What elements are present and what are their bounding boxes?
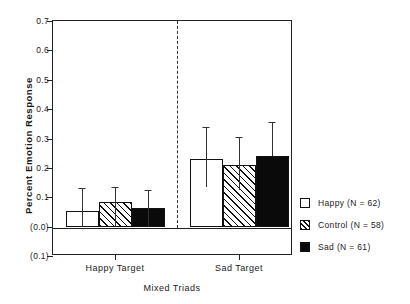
legend-swatch-hatch <box>300 220 310 230</box>
legend-label: Control (N = 58) <box>318 220 384 230</box>
y-tick-label: (0.0) <box>30 222 49 232</box>
y-tick-label: 0.4 <box>36 104 49 114</box>
y-tick-label: 0.6 <box>36 45 49 55</box>
y-tick-label: 0.7 <box>36 16 49 26</box>
error-bar-cap-top <box>145 190 152 191</box>
error-bar <box>239 137 240 190</box>
legend: Happy (N = 62)Control (N = 58)Sad (N = 6… <box>300 192 410 258</box>
x-axis-title: Mixed Triads <box>52 283 292 293</box>
y-tick-label: 0.5 <box>36 75 49 85</box>
zero-baseline <box>53 228 291 229</box>
error-bar-cap-top <box>236 137 243 138</box>
error-bar-cap-top <box>112 187 119 188</box>
x-tick-label: Happy Target <box>86 263 145 273</box>
error-bar <box>272 122 273 156</box>
error-bar <box>148 190 149 227</box>
legend-label: Sad (N = 61) <box>318 242 371 252</box>
error-bar-cap-top <box>269 122 276 123</box>
error-bar <box>115 187 116 227</box>
legend-item: Control (N = 58) <box>300 214 410 236</box>
x-tick-mark <box>239 254 240 260</box>
error-bar <box>82 188 83 226</box>
error-bar-cap-top <box>203 127 210 128</box>
y-tick-label: 0.3 <box>36 134 49 144</box>
plot-area: 0.70.60.50.40.30.20.1(0.0)(0.1) Happy Ta… <box>52 20 292 255</box>
y-tick-label: 0.2 <box>36 163 49 173</box>
error-bar-cap-top <box>79 188 86 189</box>
legend-swatch-open <box>300 198 310 208</box>
x-tick-mark <box>115 254 116 260</box>
legend-item: Happy (N = 62) <box>300 192 410 214</box>
legend-label: Happy (N = 62) <box>318 198 381 208</box>
legend-item: Sad (N = 61) <box>300 236 410 258</box>
error-bar <box>206 127 207 187</box>
x-tick-label: Sad Target <box>215 263 263 273</box>
bar <box>256 156 289 227</box>
group-divider <box>177 21 178 228</box>
chart-figure: Percent Emotion Response 0.70.60.50.40.3… <box>0 0 410 304</box>
y-tick-label: (0.1) <box>30 251 49 261</box>
legend-swatch-solid <box>300 242 310 252</box>
y-tick-label: 0.1 <box>36 192 49 202</box>
